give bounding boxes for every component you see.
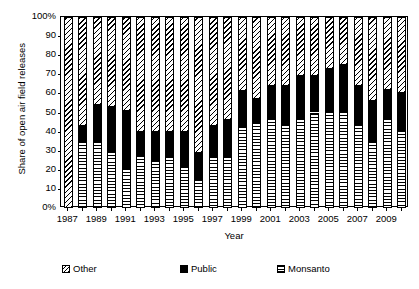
x-axis-tick-mark: [285, 207, 286, 211]
x-axis-tick-mark: [125, 207, 126, 211]
y-axis-tick-labels: 0%102030405060708090100%: [22, 16, 56, 207]
chart-legend: OtherPublicMonsanto: [62, 262, 362, 278]
bar-segment-public: [136, 132, 145, 155]
bar-segment-public: [93, 105, 102, 141]
bar-segment-other: [136, 17, 145, 132]
bar-segment-public: [383, 90, 392, 119]
y-axis-tick-label: 80: [22, 49, 56, 59]
bar-segment-monsanto: [194, 179, 203, 208]
bar-segment-public: [180, 132, 189, 166]
x-axis-tick-mark: [241, 207, 242, 211]
legend-item-other[interactable]: Other: [62, 262, 97, 276]
x-axis-tick-mark: [154, 207, 155, 211]
bar-segment-public: [122, 111, 131, 168]
x-axis-title: Year: [60, 231, 408, 241]
bar-segment-monsanto: [383, 118, 392, 208]
legend-label: Public: [191, 264, 217, 274]
bar-segment-monsanto: [368, 141, 377, 208]
y-axis-tick-label: 30: [22, 145, 56, 155]
bar-segment-public: [296, 76, 305, 118]
bar-segment-other: [354, 17, 363, 86]
y-axis-tick-label: 0%: [22, 202, 56, 212]
y-axis-tick-mark: [58, 74, 61, 75]
bar-segment-monsanto: [267, 118, 276, 208]
bar-2009: [383, 17, 392, 206]
y-axis-tick-mark: [58, 55, 61, 56]
bar-segment-monsanto: [93, 141, 102, 208]
bar-2005: [325, 17, 334, 206]
bar-segment-other: [209, 17, 218, 126]
bar-segment-other: [165, 17, 174, 132]
x-axis-tick-mark: [140, 207, 141, 211]
y-axis-tick-label: 10: [22, 183, 56, 193]
bar-segment-monsanto: [209, 156, 218, 208]
x-axis-tick-mark: [343, 207, 344, 211]
bar-2004: [310, 17, 319, 206]
bar-segment-monsanto: [354, 124, 363, 208]
y-axis-tick-label: 90: [22, 30, 56, 40]
bar-1995: [180, 17, 189, 206]
legend-item-monsanto[interactable]: Monsanto: [277, 262, 330, 276]
bar-segment-other: [107, 17, 116, 107]
legend-item-public[interactable]: Public: [180, 262, 217, 276]
bar-1993: [151, 17, 160, 206]
bar-segment-other: [397, 17, 406, 93]
bar-segment-monsanto: [151, 160, 160, 208]
bar-1994: [165, 17, 174, 206]
x-axis-tick-mark: [183, 207, 184, 211]
x-axis-tick-mark: [401, 207, 402, 211]
bar-segment-public: [238, 91, 247, 125]
x-axis-tick-mark: [314, 207, 315, 211]
bar-segment-other: [151, 17, 160, 132]
bar-2002: [281, 17, 290, 206]
bar-segment-public: [267, 86, 276, 118]
y-axis-tick-mark: [58, 93, 61, 94]
bar-segment-other: [296, 17, 305, 76]
bar-segment-monsanto: [122, 168, 131, 208]
y-axis-tick-label: 70: [22, 69, 56, 79]
bar-segment-monsanto: [339, 111, 348, 208]
bar-segment-monsanto: [136, 155, 145, 208]
legend-swatch-icon: [277, 265, 285, 273]
bar-segment-monsanto: [223, 156, 232, 208]
bar-segment-other: [281, 17, 290, 86]
bar-segment-other: [238, 17, 247, 91]
bar-segment-monsanto: [107, 151, 116, 208]
bar-2001: [267, 17, 276, 206]
legend-label: Other: [73, 264, 97, 274]
bar-segment-other: [252, 17, 261, 99]
bar-1992: [136, 17, 145, 206]
bar-segment-public: [281, 86, 290, 124]
y-axis-tick-label: 40: [22, 126, 56, 136]
y-axis-tick-mark: [58, 189, 61, 190]
bar-1996: [194, 17, 203, 206]
x-axis-tick-label: 2009: [366, 213, 406, 224]
bar-segment-monsanto: [238, 126, 247, 208]
x-axis-tick-mark: [67, 207, 68, 211]
y-axis-tick-mark: [58, 132, 61, 133]
bar-segment-other: [180, 17, 189, 132]
bar-segment-monsanto: [325, 111, 334, 208]
bar-1989: [93, 17, 102, 206]
bar-segment-public: [223, 120, 232, 156]
bar-segment-public: [252, 99, 261, 122]
bar-segment-public: [397, 93, 406, 129]
bar-segment-public: [354, 86, 363, 124]
y-axis-tick-label: 20: [22, 164, 56, 174]
x-axis-tick-mark: [96, 207, 97, 211]
x-axis-tick-mark: [198, 207, 199, 211]
y-axis-tick-label: 60: [22, 88, 56, 98]
bar-2007: [354, 17, 363, 206]
bar-2003: [296, 17, 305, 206]
x-axis-tick-mark: [299, 207, 300, 211]
bar-segment-public: [194, 153, 203, 180]
x-axis-tick-mark: [328, 207, 329, 211]
bar-segment-other: [325, 17, 334, 69]
y-axis-tick-label: 100%: [22, 11, 56, 21]
x-axis-tick-mark: [227, 207, 228, 211]
x-axis-tick-mark: [169, 207, 170, 211]
x-axis-tick-mark: [212, 207, 213, 211]
bar-segment-public: [339, 65, 348, 111]
bar-segment-monsanto: [180, 166, 189, 208]
bar-segment-other: [368, 17, 377, 101]
